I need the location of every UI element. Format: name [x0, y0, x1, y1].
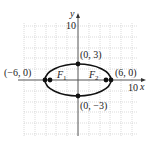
label-left-vertex: (−6, 0)	[4, 67, 31, 79]
point-left-vertex	[43, 78, 48, 83]
y-axis-arrow-icon	[76, 13, 80, 18]
y-axis-label: y	[69, 8, 75, 19]
label-bottom-vertex: (0, −3)	[80, 100, 107, 112]
label-right-vertex: (6, 0)	[115, 67, 137, 79]
x-tick-label: 10	[128, 82, 138, 93]
ellipse-graph: y 10 10 x (0, 3) (0, −3) (−6, 0) (6, 0) …	[0, 0, 153, 147]
point-bottom-vertex	[76, 94, 81, 99]
label-top-vertex: (0, 3)	[80, 49, 102, 61]
y-tick-label: 10	[66, 20, 76, 31]
point-focus-1	[48, 78, 53, 83]
x-axis-label: x	[139, 81, 145, 92]
point-top-vertex	[76, 62, 81, 67]
point-focus-2	[104, 78, 109, 83]
point-right-vertex	[109, 78, 114, 83]
